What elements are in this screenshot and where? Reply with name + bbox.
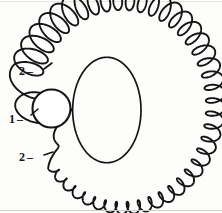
callout-number: 1 [9,113,15,125]
figure-container: 2– 1– 2– [0,0,222,213]
callout-number: 2 [19,65,25,77]
callout-leader-dash: – [17,113,23,125]
leader-tick-2-bottom [44,152,53,155]
orbit-diagram-canvas [0,0,222,213]
callout-label-2-bottom: 2– [19,150,33,163]
callout-label-1: 1– [9,112,23,125]
scan-artifact-line-bottom [0,210,222,211]
callout-number: 2 [19,151,25,163]
callout-leader-dash: – [27,65,33,77]
callout-leader-dash: – [27,151,33,163]
callout-label-2-top: 2– [19,64,33,77]
